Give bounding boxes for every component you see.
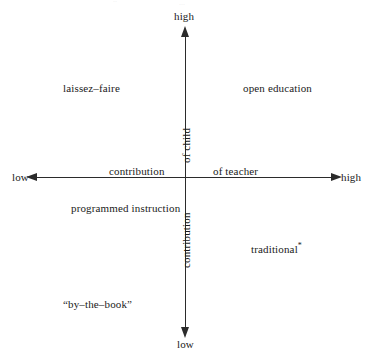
quadrant-diagram-canvas: ·· ··· high low low high contribution of… [0,0,372,363]
vertical-axis-title-part2: of child [180,128,193,163]
vertical-axis-title-part1: contribution [180,212,193,268]
horizontal-axis-line [36,177,334,178]
horizontal-axis-title-part1: contribution [109,165,165,178]
quadrant-label-traditional: traditional* [251,243,302,256]
scan-artifact: ··· [179,2,185,8]
vertical-axis-low-label: low [177,338,194,351]
quadrant-label-open-education: open education [243,82,312,95]
arrow-up-icon [181,26,189,37]
footnote-asterisk: * [298,241,302,250]
horizontal-axis-high-label: high [341,171,361,184]
horizontal-axis-title-part2: of teacher [213,165,258,178]
horizontal-axis-low-label: low [12,171,29,184]
scan-artifact: ·· [113,0,117,5]
quadrant-label-laissez-faire: laissez–faire [63,82,120,95]
quadrant-label-by-the-book: “by–the–book” [63,298,132,311]
arrow-down-icon [181,327,189,338]
quadrant-label-traditional-text: traditional [251,243,298,255]
quadrant-label-programmed-instruction: programmed instruction [71,202,180,215]
vertical-axis-high-label: high [174,10,194,23]
vertical-axis-line [185,34,186,329]
